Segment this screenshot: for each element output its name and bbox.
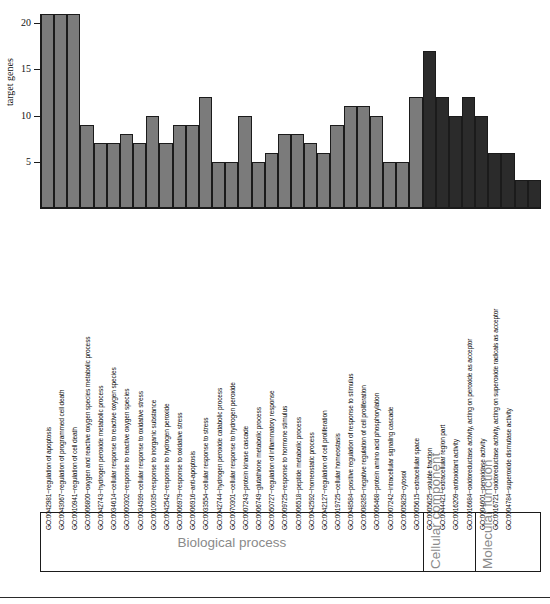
y-tick-label: 15 bbox=[0, 63, 31, 74]
category-molecular-function-label: Molecular function bbox=[480, 459, 495, 569]
bar bbox=[383, 162, 396, 208]
bar bbox=[423, 51, 436, 208]
bar bbox=[344, 106, 357, 208]
plot-area bbox=[41, 14, 541, 208]
bar bbox=[501, 153, 514, 208]
bar bbox=[330, 125, 343, 208]
x-axis-line bbox=[40, 208, 541, 209]
bar bbox=[409, 97, 422, 208]
bar bbox=[41, 14, 54, 208]
bar bbox=[265, 153, 278, 208]
bar bbox=[159, 143, 172, 208]
footer-rule bbox=[0, 597, 550, 598]
bar bbox=[67, 14, 80, 208]
category-biological-process: Biological process bbox=[41, 513, 423, 571]
category-divider bbox=[475, 513, 476, 571]
x-tick-label: GO:0050727~regulation of inflammatory re… bbox=[268, 390, 275, 530]
bar bbox=[475, 116, 488, 208]
category-footer: Biological process Cellular componentMol… bbox=[40, 512, 541, 572]
bar bbox=[212, 162, 225, 208]
bar-series bbox=[41, 14, 541, 208]
bar bbox=[252, 162, 265, 208]
bar bbox=[173, 125, 186, 208]
x-tick-label: GO:0008285~negative regulation of cell p… bbox=[360, 385, 367, 530]
x-tick-label: GO:0070301~cellular response to hydrogen… bbox=[229, 382, 236, 530]
x-tick-label: GO:0034599~cellular response to oxidativ… bbox=[137, 391, 144, 530]
bar bbox=[94, 143, 107, 208]
bar bbox=[396, 162, 409, 208]
bar bbox=[146, 116, 159, 208]
bar bbox=[462, 97, 475, 208]
bar bbox=[107, 143, 120, 208]
bar bbox=[317, 153, 330, 208]
bar bbox=[436, 97, 449, 208]
x-tick-label: GO:0006800~oxygen and reactive oxygen sp… bbox=[84, 337, 91, 530]
x-tick-label: GO:0034614~cellular response to reactive… bbox=[110, 367, 117, 530]
bar bbox=[278, 134, 291, 208]
x-tick-label: GO:0016684~oxidoreductase activity, acti… bbox=[466, 339, 473, 530]
x-tick-label: GO:0000302~response to reactive oxygen s… bbox=[123, 389, 130, 530]
bar bbox=[238, 116, 251, 208]
bar bbox=[528, 180, 541, 208]
bar bbox=[449, 116, 462, 208]
x-axis-tick-labels: GO:0042981~regulation of apoptosisGO:004… bbox=[41, 210, 541, 530]
bar bbox=[133, 143, 146, 208]
bar bbox=[291, 134, 304, 208]
go-enrichment-chart: target genes 5101520 GO:0042981~regulati… bbox=[0, 0, 550, 604]
bar bbox=[488, 153, 501, 208]
bar bbox=[357, 106, 370, 208]
x-tick-label: GO:0042744~hydrogen peroxide catabolic p… bbox=[216, 388, 223, 530]
category-biological-process-label: Biological process bbox=[177, 535, 286, 550]
x-tick-label: GO:0048584~positive regulation of respon… bbox=[347, 374, 354, 530]
bar bbox=[304, 143, 317, 208]
x-tick-label: GO:0010035~response to inorganic substan… bbox=[150, 400, 157, 530]
bar bbox=[186, 125, 199, 208]
bar bbox=[120, 134, 133, 208]
x-tick-label: GO:0042743~hydrogen peroxide metabolic p… bbox=[97, 386, 104, 530]
bar bbox=[515, 180, 528, 208]
x-tick-label: GO:0043067~regulation of programmed cell… bbox=[58, 390, 65, 530]
y-tick-label: 20 bbox=[0, 17, 31, 28]
category-cellular-component-label: Cellular component bbox=[428, 453, 443, 569]
bar bbox=[54, 14, 67, 208]
y-tick-label: 5 bbox=[0, 156, 31, 167]
bar bbox=[80, 125, 93, 208]
bar bbox=[199, 97, 212, 208]
category-divider bbox=[423, 513, 424, 571]
bar bbox=[225, 162, 238, 208]
y-tick-label: 10 bbox=[0, 110, 31, 121]
x-tick-label: GO:0006468~protein amino acid phosphoryl… bbox=[373, 393, 380, 530]
bar bbox=[370, 116, 383, 208]
